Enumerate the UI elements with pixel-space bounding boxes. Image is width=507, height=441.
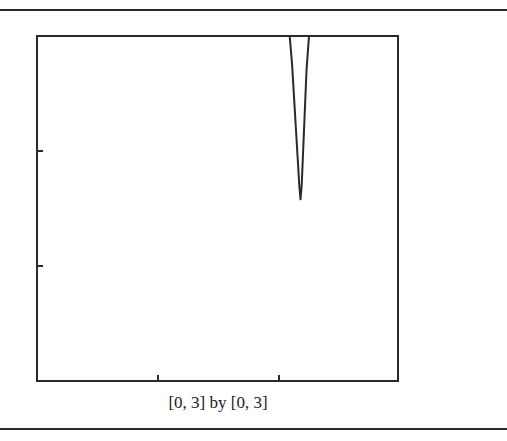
bottom-rule xyxy=(0,428,507,430)
curve-line xyxy=(290,36,309,199)
plot-frame xyxy=(37,36,398,381)
plot-area xyxy=(0,0,507,441)
window-caption: [0, 3] by [0, 3] xyxy=(0,393,436,413)
